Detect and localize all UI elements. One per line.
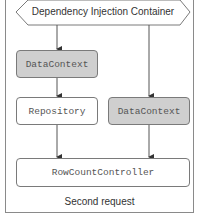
node-datacontext-left: DataContext — [16, 50, 98, 78]
node-label: DataContext — [118, 106, 181, 117]
node-label: RowCountController — [52, 167, 155, 178]
container-label: Dependency Injection Container — [16, 3, 190, 21]
diagram-caption: Second request — [5, 196, 194, 207]
node-label: Repository — [28, 106, 85, 117]
node-repository: Repository — [16, 97, 98, 125]
node-datacontext-right: DataContext — [108, 97, 190, 125]
node-rowcountcontroller: RowCountController — [16, 158, 190, 187]
node-label: DataContext — [26, 59, 89, 70]
